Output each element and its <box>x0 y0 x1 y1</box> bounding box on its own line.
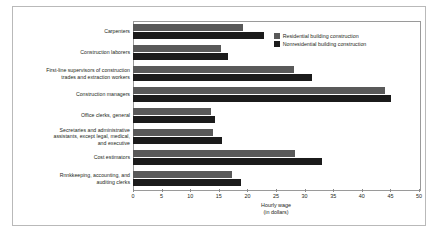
bar-residential <box>133 87 385 94</box>
bar-residential <box>133 108 211 115</box>
x-axis-tick-label: 10 <box>187 193 193 199</box>
x-axis-tick <box>305 189 306 192</box>
x-axis-tick-label: 15 <box>216 193 222 199</box>
x-axis-tick-label: 40 <box>359 193 365 199</box>
bar-nonresidential <box>133 158 322 165</box>
x-axis-tick <box>390 189 391 192</box>
bar-nonresidential <box>133 53 228 60</box>
chart-legend: Residential building construction Nonres… <box>274 33 424 49</box>
x-axis-title-line2: (in dollars) <box>133 209 419 216</box>
bar-nonresidential <box>133 116 215 123</box>
bar-residential <box>133 24 243 31</box>
legend-label-residential: Residential building construction <box>283 33 359 39</box>
category-label: Office clerks, general <box>18 112 130 118</box>
bar-nonresidential <box>133 179 241 186</box>
category-label: Construction laborers <box>18 49 130 55</box>
x-axis-title-line1: Hourly wage <box>133 202 419 209</box>
category-label-line: Office clerks, general <box>18 112 130 118</box>
bar-nonresidential <box>133 137 222 144</box>
x-axis-tick-label: 5 <box>160 193 163 199</box>
x-axis-tick <box>162 189 163 192</box>
category-label: First-line supervisors of constructiontr… <box>18 67 130 80</box>
category-label: Carpenters <box>18 28 130 34</box>
category-label: Secretaries and administrativeassistants… <box>18 127 130 146</box>
x-axis-tick-label: 35 <box>330 193 336 199</box>
bar-residential <box>133 66 294 73</box>
x-axis-tick-label: 0 <box>132 193 135 199</box>
category-label-line: Construction laborers <box>18 49 130 55</box>
category-axis-labels: CarpentersConstruction laborersFirst-lin… <box>18 21 130 189</box>
bar-nonresidential <box>133 32 264 39</box>
x-axis-tick <box>133 189 134 192</box>
x-axis-tick <box>419 189 420 192</box>
bar-residential <box>133 129 213 136</box>
bar-nonresidential <box>133 95 391 102</box>
x-axis-tick <box>190 189 191 192</box>
x-axis-tick <box>219 189 220 192</box>
bar-residential <box>133 171 232 178</box>
x-axis-tick-label: 30 <box>302 193 308 199</box>
x-axis-tick-label: 25 <box>273 193 279 199</box>
category-label: Construction managers <box>18 91 130 97</box>
legend-swatch-icon-nonresidential <box>274 41 280 47</box>
category-label-line: Carpenters <box>18 28 130 34</box>
legend-item-nonresidential: Nonresidential building construction <box>274 41 424 47</box>
figure-caption <box>22 224 420 231</box>
x-axis-tick <box>247 189 248 192</box>
category-label-line: Construction managers <box>18 91 130 97</box>
chart-page: CarpentersConstruction laborersFirst-lin… <box>0 0 438 234</box>
category-label-line: auditing clerks <box>18 179 130 185</box>
x-axis-title: Hourly wage (in dollars) <box>133 202 419 215</box>
category-label: Rnnkkeeping, accounting, andauditing cle… <box>18 172 130 185</box>
x-axis-tick <box>276 189 277 192</box>
x-axis-tick-label: 20 <box>244 193 250 199</box>
category-label-line: and executive <box>18 140 130 146</box>
x-axis-tick <box>362 189 363 192</box>
category-label-line: Cost estimators <box>18 154 130 160</box>
bar-nonresidential <box>133 74 312 81</box>
bar-residential <box>133 45 221 52</box>
bar-chart-figure: CarpentersConstruction laborersFirst-lin… <box>0 0 438 234</box>
legend-label-nonresidential: Nonresidential building construction <box>283 41 367 47</box>
legend-swatch-icon-residential <box>274 33 280 39</box>
bar-residential <box>133 150 295 157</box>
category-label: Cost estimators <box>18 154 130 160</box>
x-axis-tick <box>333 189 334 192</box>
x-axis-tick-label: 45 <box>387 193 393 199</box>
legend-item-residential: Residential building construction <box>274 33 424 39</box>
x-axis-tick-label: 50 <box>416 193 422 199</box>
category-label-line: trades and extraction workers <box>18 74 130 80</box>
